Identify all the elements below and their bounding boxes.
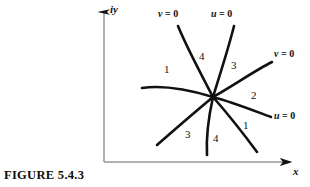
region-lower-4: 4 [213, 133, 219, 144]
axes-group [104, 12, 290, 162]
curve-lower-middle [207, 97, 213, 155]
curve-right-upper-v0-label-variable: v [274, 48, 278, 59]
figure-caption: FIGURE 5.4.3 [4, 168, 84, 183]
region-lower-3: 3 [185, 129, 191, 140]
curve-right-lower-u0-label: u = 0 [274, 111, 295, 121]
region-upper-3: 3 [231, 60, 237, 71]
curve-upper-left-v0-label: v = 0 [158, 9, 178, 19]
y-axis-label: iy [110, 4, 118, 15]
curve-upper-right-u0-label: u = 0 [211, 9, 232, 19]
curve-left-middle [142, 87, 213, 97]
curve-right-upper-v0-label: v = 0 [274, 49, 294, 59]
region-lower-1: 1 [243, 120, 249, 131]
region-upper-2: 2 [251, 90, 257, 101]
curve-upper-left-v0-label-variable: v [158, 8, 162, 19]
curve-right-lower-u0-label-variable: u [274, 110, 280, 121]
curve-upper-right-u0-label-variable: u [211, 8, 217, 19]
figure-container: iy x v = 0u = 0v = 0u = 0 1432143 FIGURE… [0, 0, 310, 187]
curve-upper-left-v0 [178, 26, 213, 97]
region-upper-4: 4 [199, 51, 205, 62]
region-upper-1: 1 [164, 64, 170, 75]
curve-lower-right [213, 97, 257, 152]
figure-drawing [0, 0, 310, 187]
x-axis-label: x [293, 166, 299, 177]
